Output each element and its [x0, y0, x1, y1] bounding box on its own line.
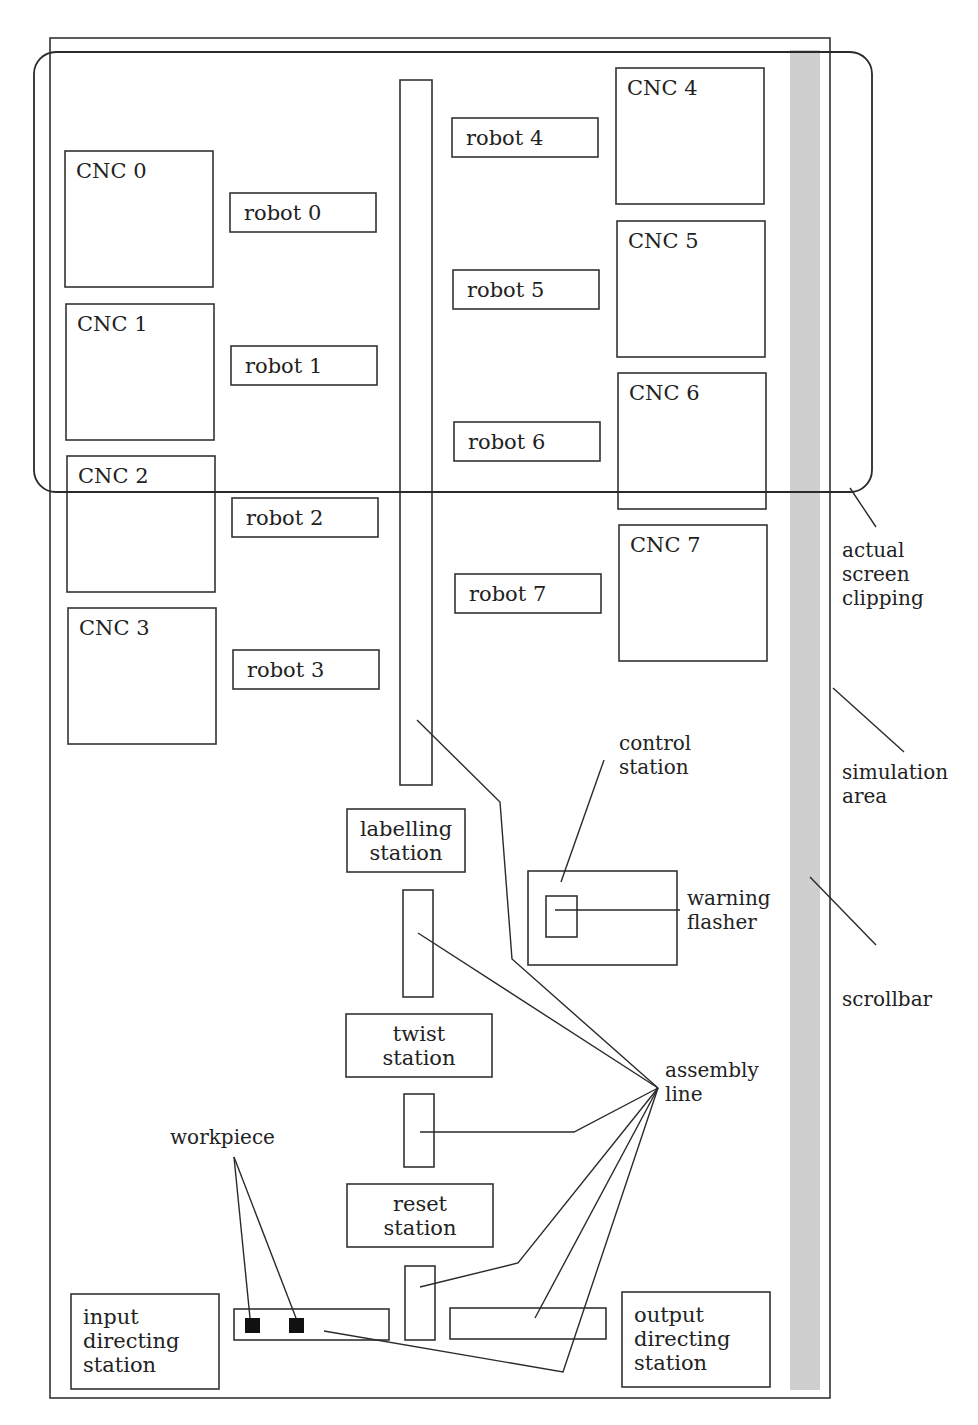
annotation-text: control [619, 731, 691, 755]
annotation-simulation-area: simulationarea [842, 760, 948, 808]
cnc-machine-7[interactable]: CNC 7 [619, 525, 767, 661]
cnc-machine-2[interactable]: CNC 2 [67, 456, 215, 592]
cnc-machine-6[interactable]: CNC 6 [618, 373, 766, 509]
labelling-station[interactable]: labellingstation [347, 809, 465, 872]
robot-label: robot 6 [468, 430, 545, 454]
assembly-leader-seg2 [420, 1088, 658, 1132]
cnc-machine-0[interactable]: CNC 0 [65, 151, 213, 287]
workpiece-0[interactable] [245, 1318, 260, 1333]
twist-station[interactable]: twiststation [346, 1014, 492, 1077]
station-label-line: output [634, 1303, 705, 1327]
station-label-line: directing [634, 1327, 731, 1351]
station-label-line: input [83, 1305, 139, 1329]
cnc-label: CNC 7 [630, 533, 701, 557]
robot-6[interactable]: robot 6 [454, 422, 600, 461]
robot-2[interactable]: robot 2 [232, 498, 378, 537]
annotation-text: assembly [665, 1058, 759, 1082]
annotation-text: scrollbar [842, 987, 933, 1011]
annotation-text: screen [842, 562, 910, 586]
reset-station[interactable]: resetstation [347, 1184, 493, 1247]
annotation-scrollbar: scrollbar [842, 987, 933, 1011]
scrollbar[interactable] [790, 50, 820, 1390]
cnc-machine-5[interactable]: CNC 5 [617, 221, 765, 357]
robot-label: robot 2 [246, 506, 323, 530]
annotation-text: simulation [842, 760, 948, 784]
station-label-line: station [83, 1353, 156, 1377]
robot-1[interactable]: robot 1 [231, 346, 377, 385]
station-label-line: twist [393, 1022, 446, 1046]
conveyor-segment-1 [404, 1094, 434, 1167]
robot-4[interactable]: robot 4 [452, 118, 598, 157]
cnc-label: CNC 2 [78, 464, 149, 488]
annotation-assembly-line: assemblyline [665, 1058, 759, 1106]
annotation-warning-flasher: warningflasher [687, 886, 771, 934]
robot-label: robot 3 [247, 658, 324, 682]
cnc-label: CNC 0 [76, 159, 147, 183]
warning-flasher[interactable] [546, 896, 577, 937]
annotation-text: station [619, 755, 689, 779]
station-label-line: station [634, 1351, 707, 1375]
cnc-label: CNC 1 [77, 312, 148, 336]
annotation-control-station: controlstation [619, 731, 691, 779]
robot-label: robot 1 [245, 354, 322, 378]
cnc-label: CNC 5 [628, 229, 699, 253]
input-directing-station[interactable]: inputdirectingstation [71, 1294, 219, 1389]
clipping-leader [850, 488, 876, 527]
assembly-leader-seg4 [535, 1088, 658, 1318]
annotation-actual-screen-clipping: actualscreenclipping [842, 538, 924, 610]
station-label-line: station [382, 1046, 455, 1070]
annotation-text: clipping [842, 586, 924, 610]
workpiece-leader-2 [234, 1157, 296, 1318]
station-label-line: labelling [360, 817, 452, 841]
robot-label: robot 7 [469, 582, 546, 606]
annotation-text: flasher [687, 910, 757, 934]
cnc-machine-3[interactable]: CNC 3 [68, 608, 216, 744]
workpiece-1[interactable] [289, 1318, 304, 1333]
cnc-label: CNC 4 [627, 76, 698, 100]
annotation-text: line [665, 1082, 703, 1106]
simulation-area-leader [833, 688, 904, 752]
robot-0[interactable]: robot 0 [230, 193, 376, 232]
annotation-text: warning [687, 886, 771, 910]
cnc-machine-1[interactable]: CNC 1 [66, 304, 214, 440]
annotation-text: area [842, 784, 887, 808]
cnc-label: CNC 3 [79, 616, 150, 640]
workpiece-leader-1 [234, 1157, 250, 1318]
robot-label: robot 0 [244, 201, 321, 225]
diagram-canvas: CNC 0CNC 1CNC 2CNC 3CNC 4CNC 5CNC 6CNC 7… [0, 0, 978, 1425]
robot-7[interactable]: robot 7 [455, 574, 601, 613]
cnc-label: CNC 6 [629, 381, 700, 405]
conveyor-segment-2 [405, 1266, 435, 1340]
station-label-line: station [369, 841, 442, 865]
station-label-line: reset [393, 1192, 448, 1216]
control-station-leader [561, 760, 604, 882]
cnc-machine-4[interactable]: CNC 4 [616, 68, 764, 204]
robot-label: robot 4 [466, 126, 543, 150]
output-directing-station[interactable]: outputdirectingstation [622, 1292, 770, 1387]
annotation-text: workpiece [170, 1125, 275, 1149]
robot-3[interactable]: robot 3 [233, 650, 379, 689]
station-label-line: station [383, 1216, 456, 1240]
robot-label: robot 5 [467, 278, 544, 302]
station-label-line: directing [83, 1329, 180, 1353]
annotation-text: actual [842, 538, 904, 562]
main-conveyor [400, 80, 432, 785]
robot-5[interactable]: robot 5 [453, 270, 599, 309]
annotation-workpiece: workpiece [170, 1125, 275, 1149]
conveyor-segment-0 [403, 890, 433, 997]
